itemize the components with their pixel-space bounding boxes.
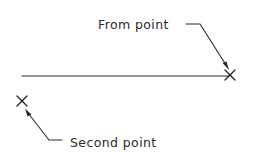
second-point-marker-icon xyxy=(17,96,27,106)
from-point-label: From point xyxy=(98,17,169,32)
from-point-marker-icon xyxy=(225,70,235,80)
diagram-canvas: From point Second point xyxy=(0,0,254,159)
second-point-arrowhead-icon xyxy=(25,109,32,117)
second-point-leader xyxy=(25,109,62,141)
second-point-label: Second point xyxy=(70,135,157,150)
from-point-leader xyxy=(186,24,229,70)
from-point-arrowhead-icon xyxy=(223,62,230,71)
